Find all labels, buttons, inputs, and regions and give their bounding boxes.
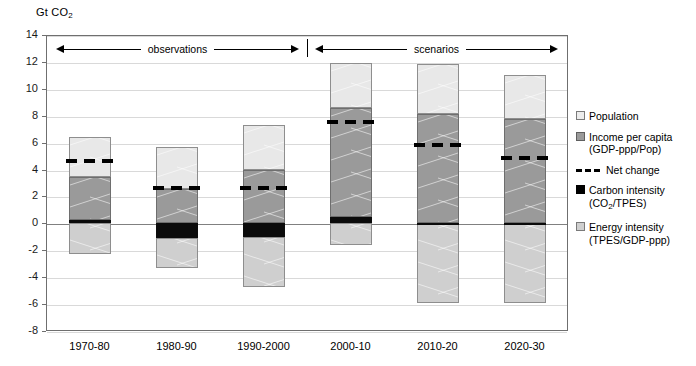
y-tick-mark [42,223,46,224]
y-tick-mark [42,143,46,144]
band-divider [307,39,308,57]
bar-segment-carbon [504,223,546,225]
bar-segment-energy [417,223,459,302]
arrow-left-icon [315,45,323,53]
band-line [323,49,407,50]
bar-segment-income [69,177,111,220]
segment-pattern [69,174,111,177]
grid-line [47,90,567,91]
bar-1980-90[interactable] [156,35,198,331]
bar-segment-income [156,189,198,223]
segment-pattern [330,63,372,72]
net-change-marker [240,186,251,190]
segment-pattern [417,283,459,298]
grid-line [47,63,567,64]
band-label: scenarios [407,44,466,54]
segment-pattern [330,211,372,216]
y-tick-label: -4 [10,271,38,282]
bar-segment-population [243,125,285,170]
y-tick-label: 8 [10,110,38,121]
legend-swatch-energy-icon [576,222,585,231]
bar-segment-population [69,137,111,177]
segment-pattern [156,147,198,156]
y-tick-label: -8 [10,325,38,336]
band-label: observations [141,44,215,54]
y-tick-label: 10 [10,83,38,94]
legend-swatch-population-icon [576,111,585,120]
grid-line [47,224,567,225]
bar-segment-energy [156,238,198,268]
y-tick-mark [42,35,46,36]
chart-root: Gt CO2 14121086420-2-4-6-8 1970-801980-9… [0,0,696,366]
legend-sublabel: (GDP-ppp/Pop) [589,143,661,155]
bar-segment-population [330,63,372,108]
grid-line [47,117,567,118]
bar-2010-20[interactable] [417,35,459,331]
net-change-marker [501,156,512,160]
grid-line [47,171,567,172]
net-change-marker [537,156,548,160]
net-change-marker [276,186,287,190]
bar-1970-80[interactable] [69,35,111,331]
bar-segment-energy [504,223,546,303]
bar-segment-energy [69,223,111,254]
segment-pattern [264,212,285,220]
arrow-left-icon [56,45,64,53]
grid-line [47,251,567,252]
legend-item-carbon: Carbon intensity(CO2/TPES) [576,184,694,213]
arrow-right-icon [291,45,299,53]
grid-line [47,305,567,306]
grid-line [47,197,567,198]
net-change-marker [258,186,269,190]
net-change-marker [327,120,338,124]
net-change-marker [189,186,200,190]
grid-line [47,332,567,333]
bar-2020-30[interactable] [504,35,546,331]
net-change-marker [450,143,461,147]
legend-swatch-carbon-icon [576,185,585,194]
grid-line [47,36,567,37]
y-tick-mark [42,89,46,90]
bar-2000-10[interactable] [330,35,372,331]
bar-1990-2000[interactable] [243,35,285,331]
x-tick-label: 1970-80 [46,340,133,352]
segment-pattern [525,75,546,81]
net-change-marker [363,120,374,124]
y-tick-mark [42,170,46,171]
segment-pattern [504,261,546,276]
bar-segment-carbon [69,220,111,223]
plot-area [46,35,568,331]
x-tick-label: 2010-20 [394,340,481,352]
bar-segment-income [330,108,372,217]
segment-pattern [69,239,111,254]
y-tick-mark [42,62,46,63]
arrow-right-icon [550,45,558,53]
y-tick-label: -2 [10,244,38,255]
segment-pattern [264,145,285,153]
segment-pattern [417,102,459,114]
x-tick-label: 1980-90 [133,340,220,352]
bar-segment-income [417,114,459,223]
y-tick-label: 2 [10,190,38,201]
segment-pattern [330,239,372,245]
legend-label: Net change [606,164,694,177]
y-tick-mark [42,250,46,251]
x-tick-label: 1990-2000 [220,340,307,352]
bar-segment-population [504,75,546,119]
bar-segment-energy [243,237,285,287]
band-observations: observations [56,42,299,56]
y-tick-label: 12 [10,56,38,67]
y-tick-mark [42,196,46,197]
net-change-marker [171,186,182,190]
y-tick-label: 6 [10,137,38,148]
net-change-marker [153,186,164,190]
legend-item-population: Population [576,110,694,123]
legend-label: Income per capita [589,131,672,143]
legend-label: Energy intensity [589,221,664,233]
segment-pattern [264,190,285,198]
y-tick-label: -6 [10,298,38,309]
grid-line [47,144,567,145]
band-line [64,49,141,50]
net-change-marker [432,143,443,147]
bar-segment-carbon [417,223,459,225]
